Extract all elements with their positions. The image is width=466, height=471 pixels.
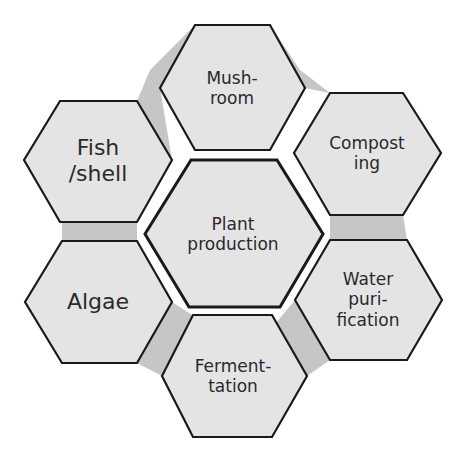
label-line: puri-	[336, 290, 399, 310]
label-line: production	[187, 234, 278, 254]
label-algae: Algae	[67, 289, 129, 315]
label-line: ing	[329, 153, 405, 173]
label-line: Mush-	[206, 68, 257, 88]
label-fermentation: Ferment- tation	[195, 356, 272, 397]
label-line: Plant	[187, 214, 278, 234]
label-line: Algae	[67, 289, 129, 315]
label-line: Fish	[69, 135, 128, 161]
connector-algae-fish	[62, 222, 137, 241]
label-line: tation	[195, 376, 272, 396]
label-line: room	[206, 88, 257, 108]
label-line: Ferment-	[195, 356, 272, 376]
hexagon-cycle-diagram: Plant production Mush- room Compost ing …	[0, 0, 466, 471]
label-fish-shell: Fish /shell	[69, 135, 128, 188]
label-mushroom: Mush- room	[206, 68, 257, 109]
connector-composting-water	[330, 215, 407, 240]
label-composting: Compost ing	[329, 133, 405, 174]
label-line: fication	[336, 310, 399, 330]
label-water-purification: Water puri- fication	[336, 269, 399, 330]
label-line: /shell	[69, 161, 128, 187]
label-plant-production: Plant production	[187, 214, 278, 255]
label-line: Water	[336, 269, 399, 289]
label-line: Compost	[329, 133, 405, 153]
